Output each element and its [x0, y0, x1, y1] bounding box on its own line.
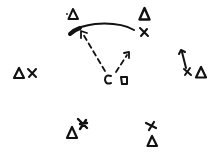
x-right-icon: [184, 68, 191, 75]
dashed-arrow-left: [81, 31, 105, 71]
triangle-left-icon: [14, 68, 24, 78]
x-bottom-left-icon: [78, 119, 87, 129]
triangle-bottom-right-icon: [148, 136, 158, 146]
play-diagram: [0, 0, 218, 160]
triangle-right-icon: [196, 67, 206, 78]
curved-path-top: [70, 24, 134, 34]
triangle-top-left-icon: [66, 9, 78, 19]
solid-arrow-right: [179, 50, 186, 68]
x-top-right-icon: [140, 28, 148, 36]
x-left-icon: [28, 69, 36, 77]
square-marker-icon: [121, 77, 127, 84]
c-marker-icon: [105, 76, 111, 84]
dashed-arrow-right: [116, 52, 129, 72]
x-bottom-right-icon: [146, 122, 156, 130]
triangle-top-right-icon: [140, 8, 150, 20]
triangle-bottom-left-icon: [67, 127, 77, 138]
